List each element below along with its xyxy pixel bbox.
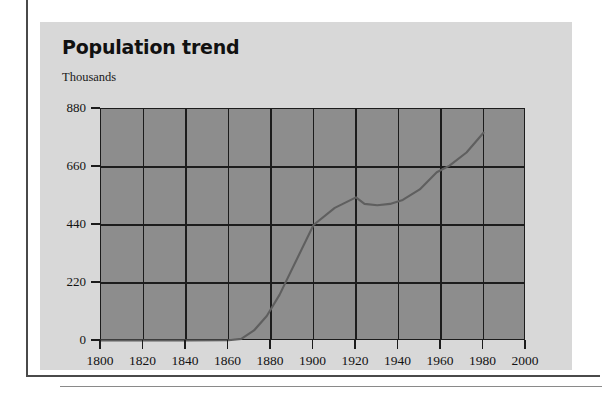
population-line-series: [101, 109, 526, 341]
x-axis-tick: [397, 340, 399, 349]
x-axis-tick-label: 1880: [246, 353, 294, 369]
y-axis-tick-label: 660: [42, 158, 86, 174]
x-axis-tick: [99, 340, 101, 349]
figure-panel: Population trend Thousands 8806604402200…: [40, 22, 572, 370]
x-axis-tick-label: 1960: [416, 353, 464, 369]
page-bottom-rule: [26, 375, 600, 377]
x-axis-tick-label: 1840: [161, 353, 209, 369]
plot-area: [100, 108, 525, 340]
x-axis-tick: [269, 340, 271, 349]
x-axis-tick: [184, 340, 186, 349]
x-axis-tick: [312, 340, 314, 349]
x-axis-tick-label: 1940: [374, 353, 422, 369]
y-axis-tick: [91, 281, 100, 283]
x-axis-tick: [354, 340, 356, 349]
y-axis-tick: [91, 165, 100, 167]
y-axis-tick-label: 880: [42, 100, 86, 116]
y-axis-tick-label: 440: [42, 216, 86, 232]
y-axis-tick: [91, 223, 100, 225]
x-axis-tick-label: 2000: [501, 353, 549, 369]
x-axis-tick: [439, 340, 441, 349]
x-axis-tick-label: 1800: [76, 353, 124, 369]
x-axis-tick-label: 1860: [204, 353, 252, 369]
y-axis-unit-label: Thousands: [62, 70, 116, 85]
y-axis-tick-label: 0: [42, 332, 86, 348]
page-bottom-secondary-rule: [60, 386, 602, 387]
page-left-rule: [26, 0, 28, 377]
x-axis-tick-label: 1920: [331, 353, 379, 369]
x-axis-tick-label: 1980: [459, 353, 507, 369]
x-axis-tick-label: 1820: [119, 353, 167, 369]
x-axis-tick: [142, 340, 144, 349]
chart-title: Population trend: [62, 36, 240, 58]
x-axis-tick-label: 1900: [289, 353, 337, 369]
y-axis-tick: [91, 107, 100, 109]
x-axis-tick: [524, 340, 526, 349]
y-axis-tick-label: 220: [42, 274, 86, 290]
x-axis-tick: [227, 340, 229, 349]
x-axis-tick: [482, 340, 484, 349]
